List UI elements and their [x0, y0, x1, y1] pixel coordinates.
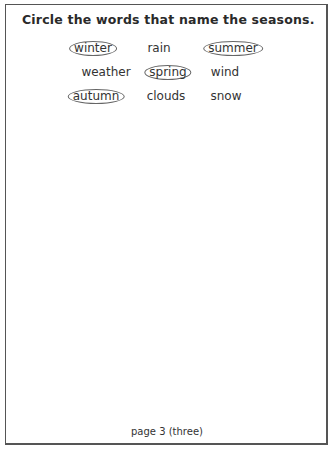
circled-word[interactable]: summer: [203, 41, 263, 56]
instruction-heading: Circle the words that name the seasons.: [22, 12, 315, 27]
circled-word[interactable]: spring: [144, 65, 191, 80]
circled-word[interactable]: winter: [69, 41, 117, 56]
page-number: page 3 (three): [0, 426, 334, 437]
word[interactable]: snow: [210, 88, 241, 104]
word[interactable]: weather: [81, 64, 130, 80]
circled-word[interactable]: autumn: [68, 89, 125, 104]
word[interactable]: wind: [211, 64, 239, 80]
word[interactable]: clouds: [147, 88, 186, 104]
word[interactable]: rain: [147, 40, 170, 56]
